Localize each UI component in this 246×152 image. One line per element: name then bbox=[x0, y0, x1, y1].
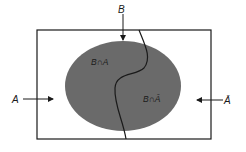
venn-diagram: B A Ā B∩A B∩Ā bbox=[0, 0, 246, 152]
label-a: A bbox=[11, 94, 19, 105]
label-b: B bbox=[118, 4, 125, 15]
label-region-b-and-a: B∩A bbox=[91, 57, 109, 67]
label-a-bar: Ā bbox=[223, 95, 231, 106]
set-b-ellipse bbox=[65, 41, 181, 131]
label-region-b-and-not-a: B∩Ā bbox=[143, 94, 161, 104]
